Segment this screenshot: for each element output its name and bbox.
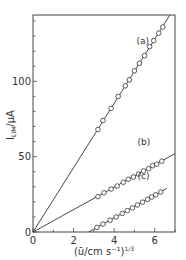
y-tick-label-50: 50 bbox=[18, 151, 31, 162]
data-point-c bbox=[120, 211, 125, 216]
data-point-c bbox=[108, 218, 113, 223]
data-point-c bbox=[140, 200, 145, 205]
data-point-c bbox=[114, 215, 119, 220]
data-point-c bbox=[130, 206, 135, 211]
data-point-c bbox=[153, 192, 158, 197]
data-point-b bbox=[126, 177, 131, 182]
data-point-a bbox=[161, 25, 166, 30]
x-axis-title-main: (ū/cm s⁻¹) bbox=[74, 246, 125, 257]
data-point-b bbox=[109, 187, 114, 192]
data-point-a bbox=[142, 53, 147, 58]
x-tick-label-4: 4 bbox=[111, 235, 117, 246]
y-tick-label-0: 0 bbox=[25, 227, 31, 238]
data-point-b bbox=[115, 184, 120, 189]
series-label-c: (c) bbox=[137, 171, 149, 181]
data-point-a bbox=[109, 106, 114, 111]
fit-lines bbox=[33, 15, 175, 232]
data-point-a bbox=[127, 77, 132, 82]
data-point-a bbox=[96, 127, 101, 132]
data-point-a bbox=[123, 84, 128, 89]
data-point-c bbox=[101, 222, 106, 227]
ticks bbox=[33, 21, 175, 232]
data-point-a bbox=[137, 61, 142, 66]
axes bbox=[33, 15, 175, 232]
data-point-c bbox=[159, 190, 164, 195]
y-axis-title: ILIM/μA bbox=[5, 110, 17, 140]
x-tick-label-6: 6 bbox=[152, 235, 158, 246]
data-point-a bbox=[132, 68, 137, 73]
data-point-a bbox=[116, 94, 121, 99]
y-tick-label-100: 100 bbox=[12, 76, 31, 87]
data-point-a bbox=[101, 118, 106, 123]
data-point-b bbox=[121, 180, 126, 185]
y-axis-title-subscript: LIM bbox=[10, 127, 17, 137]
data-points bbox=[95, 25, 166, 230]
data-point-b bbox=[154, 162, 159, 167]
plot-frame bbox=[33, 15, 175, 232]
data-point-b bbox=[160, 159, 165, 164]
x-tick-label-2: 2 bbox=[70, 235, 76, 246]
chart: 0 2 4 6 0 50 100 (ū/cm s⁻¹)1/3 ILIM/μA (… bbox=[0, 0, 186, 260]
data-point-c bbox=[135, 203, 140, 208]
series-label-a: (a) bbox=[136, 36, 149, 46]
series-label-b: (b) bbox=[137, 137, 150, 147]
data-point-b bbox=[96, 194, 101, 199]
y-axis-title-unit: /μA bbox=[5, 110, 16, 127]
data-point-a bbox=[156, 31, 161, 36]
data-point-a bbox=[151, 38, 156, 43]
x-axis-title-exponent: 1/3 bbox=[124, 245, 134, 252]
data-point-b bbox=[131, 175, 136, 180]
data-point-c bbox=[95, 225, 100, 230]
x-axis-title: (ū/cm s⁻¹)1/3 bbox=[74, 245, 134, 257]
data-point-c bbox=[125, 208, 130, 213]
data-point-b bbox=[102, 191, 107, 196]
